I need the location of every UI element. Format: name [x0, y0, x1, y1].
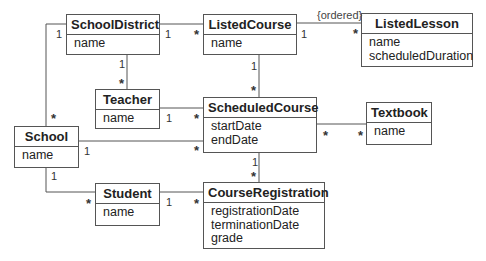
multiplicity-one: 1: [56, 29, 62, 40]
attribute: grade: [211, 232, 317, 246]
multiplicity-one: 1: [251, 61, 257, 72]
attribute: name: [74, 37, 152, 51]
attribute: endDate: [211, 134, 309, 148]
multiplicity-many: *: [51, 113, 56, 124]
multiplicity-many: *: [251, 171, 256, 182]
attribute: scheduledDuration: [369, 50, 465, 64]
multiplicity-one: 1: [166, 113, 172, 124]
class-scheduledcourse[interactable]: ScheduledCourse startDate endDate: [203, 97, 317, 153]
class-school[interactable]: School name: [14, 126, 79, 168]
class-listedlesson[interactable]: ListedLesson name scheduledDuration: [361, 13, 473, 67]
class-name: ListedLesson: [362, 14, 472, 34]
class-name: SchoolDistrict: [67, 15, 159, 35]
multiplicity-one: 1: [301, 29, 307, 40]
class-listedcourse[interactable]: ListedCourse name: [203, 14, 297, 55]
multiplicity-one: 1: [252, 157, 258, 168]
class-teacher[interactable]: Teacher name: [95, 89, 160, 129]
attribute: name: [211, 37, 289, 51]
multiplicity-one: 1: [166, 197, 172, 208]
multiplicity-many: *: [194, 29, 199, 40]
multiplicity-one: 1: [84, 146, 90, 157]
multiplicity-one: 1: [165, 29, 171, 40]
multiplicity-many: *: [323, 130, 328, 141]
class-name: ListedCourse: [204, 15, 296, 35]
attribute: terminationDate: [211, 219, 317, 233]
attribute: registrationDate: [211, 205, 317, 219]
multiplicity-many: *: [119, 78, 124, 89]
class-textbook[interactable]: Textbook name: [366, 102, 432, 145]
attribute: name: [103, 112, 152, 126]
attribute: name: [374, 125, 424, 139]
multiplicity-many: *: [86, 198, 91, 209]
attribute: name: [369, 36, 465, 50]
multiplicity-many: *: [358, 130, 363, 141]
multiplicity-one: 1: [51, 171, 57, 182]
multiplicity-many: *: [194, 113, 199, 124]
multiplicity-one: 1: [119, 59, 125, 70]
multiplicity-many: *: [194, 145, 199, 156]
class-name: Student: [96, 184, 159, 204]
class-name: ScheduledCourse: [204, 98, 316, 118]
attribute: startDate: [211, 120, 309, 134]
class-student[interactable]: Student name: [95, 183, 160, 226]
class-schooldistrict[interactable]: SchoolDistrict name: [66, 14, 160, 55]
class-name: School: [15, 127, 78, 147]
multiplicity-many: *: [251, 85, 256, 96]
class-courseregistration[interactable]: CourseRegistration registrationDate term…: [203, 182, 325, 249]
multiplicity-many: *: [353, 28, 358, 39]
class-name: Teacher: [96, 90, 159, 110]
attribute: name: [103, 206, 152, 220]
class-name: Textbook: [367, 103, 431, 123]
multiplicity-many: *: [194, 198, 199, 209]
ordered-constraint: {ordered}: [317, 9, 362, 21]
class-name: CourseRegistration: [204, 183, 324, 203]
attribute: name: [22, 149, 71, 163]
